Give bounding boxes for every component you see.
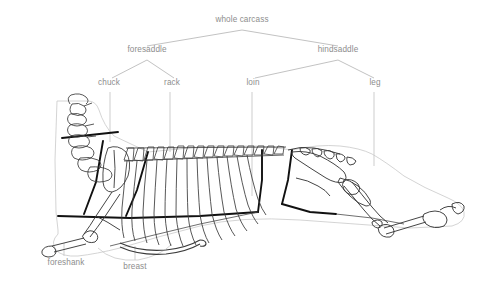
rib-13 xyxy=(247,155,266,215)
hock-joint xyxy=(423,211,447,228)
carpus-hoof xyxy=(42,246,56,257)
rib-7 xyxy=(187,158,196,245)
label-breast: breast xyxy=(123,262,146,272)
foreleg-bones-group xyxy=(42,192,120,257)
label-chuck: chuck xyxy=(98,78,120,88)
pubis xyxy=(296,178,330,196)
rib-8 xyxy=(197,158,209,243)
pelvis-group xyxy=(288,147,371,206)
tibia xyxy=(384,216,424,228)
cervical-process-3 xyxy=(87,136,96,137)
sacral-vertebra-2 xyxy=(312,148,322,157)
rib-4 xyxy=(154,160,159,245)
connector-foresaddle-rack xyxy=(147,60,174,78)
rib-5 xyxy=(165,159,171,246)
vertebra-t2 xyxy=(134,148,144,161)
diagram-canvas: whole carcass foresaddle hindsaddle chuc… xyxy=(0,0,487,284)
skull-outline xyxy=(68,94,88,104)
scapula-ridge xyxy=(114,150,115,188)
rib-6 xyxy=(176,159,183,246)
label-foreshank: foreshank xyxy=(48,258,85,268)
vertebra-t5 xyxy=(164,147,174,159)
tail-vertebra-1 xyxy=(336,154,345,162)
rib-1 xyxy=(122,161,127,238)
vertebra-c7 xyxy=(88,167,112,182)
rib-2 xyxy=(132,161,137,241)
femur xyxy=(344,186,380,226)
cut-line-loin-leg xyxy=(282,150,292,204)
rib-10 xyxy=(217,157,235,236)
label-loin: loin xyxy=(246,78,259,88)
rib-9 xyxy=(207,157,222,240)
skull-fragment xyxy=(68,94,88,104)
hindleg-bones-group xyxy=(344,182,464,237)
label-hindsaddle: hindsaddle xyxy=(318,45,359,55)
label-foresaddle: foresaddle xyxy=(127,45,166,55)
metatarsus xyxy=(440,206,456,210)
cut-line-leg-flank xyxy=(282,204,336,214)
silhouette-neck-front xyxy=(55,101,58,230)
cervical-vertebrae-group xyxy=(68,103,113,182)
tail-vertebra-2 xyxy=(347,157,356,165)
cut-line-breast xyxy=(58,212,258,218)
label-rack: rack xyxy=(164,78,180,88)
vertebra-c6 xyxy=(78,157,101,172)
sacral-vertebra-3 xyxy=(324,150,334,159)
connector-hindsaddle-leg xyxy=(338,60,374,78)
primal-cut-lines xyxy=(58,132,336,218)
cervical-process-1 xyxy=(84,103,92,106)
label-whole-carcass: whole carcass xyxy=(215,15,268,25)
sternum-tip xyxy=(200,240,206,246)
connector-foresaddle-chuck xyxy=(112,60,147,78)
silhouette-belly xyxy=(53,219,410,256)
sternum-group xyxy=(120,240,206,254)
label-leg: leg xyxy=(369,78,380,88)
connector-root-left xyxy=(147,30,242,46)
connector-hindsaddle-loin xyxy=(255,60,338,78)
rib-3 xyxy=(143,160,147,243)
cut-line-rump-extension xyxy=(336,214,404,224)
tibia-edge xyxy=(386,222,426,234)
silhouette-rump xyxy=(372,154,464,228)
radius-ulna-edge xyxy=(54,244,86,252)
connector-root-right xyxy=(242,30,338,46)
cervical-process-2 xyxy=(85,124,94,126)
cut-line-rack-loin xyxy=(258,150,262,212)
carcass-skeleton-illustration xyxy=(0,0,487,284)
humerus-edge xyxy=(90,194,120,237)
vertebra-t4 xyxy=(154,147,164,160)
radius-ulna xyxy=(52,238,84,246)
